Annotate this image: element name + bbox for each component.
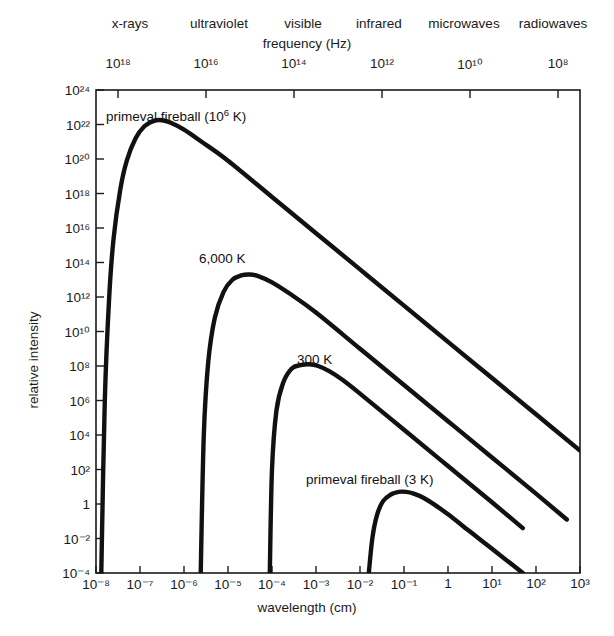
x-tick-label: 10⁻³ [303,576,330,592]
curve-label-300k: 300 K [297,352,332,367]
x-tick-label: 1 [444,576,452,591]
x-tick-label: 10⁻² [347,576,374,592]
x-tick-label: 10⁻⁶ [170,576,198,592]
plot-canvas [0,0,614,636]
y-tick-label: 10¹⁶ [42,221,90,236]
y-tick-label: 10²⁴ [42,83,90,98]
x-tick-label: 10² [526,576,546,591]
frequency-tick-label: 10¹⁶ [193,56,218,71]
blackbody-spectrum-figure: x-raysultravioletvisibleinfraredmicrowav… [0,0,614,636]
curve-6000k [201,275,567,573]
x-tick-label: 10⁻⁴ [258,576,286,592]
curve-1000000k [101,120,580,573]
y-tick-label: 10⁶ [42,393,90,408]
x-tick-label: 10⁻⁵ [214,576,242,592]
y-tick-label: 10⁸ [42,359,90,374]
frequency-tick-label: 10¹⁸ [105,56,130,71]
curve-label-6000k: 6,000 K [199,251,246,266]
y-tick-label: 10¹⁴ [42,255,90,270]
y-tick-label: 10⁻⁴ [42,565,90,581]
curve-3k [369,492,523,573]
y-tick-label: 10⁴ [42,428,90,443]
y-tick-label: 10²⁰ [42,151,90,167]
x-tick-label: 10⁻¹ [391,576,418,592]
y-tick-label: 10⁻² [42,531,90,547]
x-tick-label: 10⁻⁷ [127,576,154,592]
frequency-tick-label: 10¹⁴ [281,56,306,71]
y-tick-label: 10²² [42,117,90,132]
curve-label-1000000k: primeval fireball (106 K) [106,109,246,124]
frequency-tick-label: 10¹² [370,56,394,71]
x-tick-label: 10³ [570,576,590,591]
curve-label-3k: primeval fireball (3 K) [306,472,434,487]
y-tick-label: 10¹⁸ [42,186,90,201]
frequency-tick-label: 10⁸ [548,56,569,71]
frequency-tick-label: 10¹⁰ [457,56,483,72]
y-tick-label: 10¹⁰ [42,324,90,340]
y-tick-label: 1 [42,497,90,512]
y-tick-label: 10² [42,462,90,477]
x-tick-label: 10¹ [482,576,502,591]
y-tick-label: 10¹² [42,290,90,305]
spectrum-curves [101,120,580,573]
